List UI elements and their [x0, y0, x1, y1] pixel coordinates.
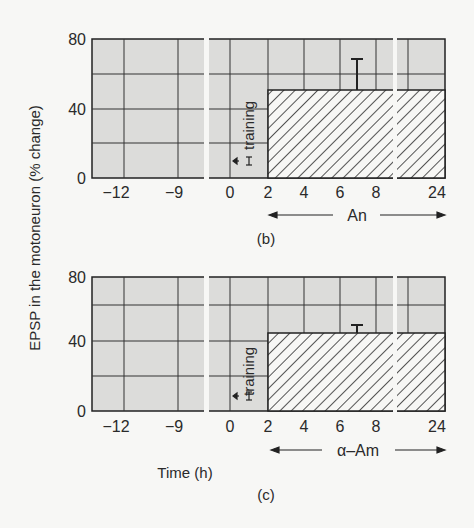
axis-break-right-b	[393, 34, 397, 184]
svg-text:−12: −12	[102, 418, 129, 435]
axis-break-left-b	[204, 34, 209, 184]
x-ticks-b: −12 −9 0 2 4 6 8 24	[102, 184, 446, 201]
axis-break-right-c	[393, 272, 397, 417]
effect-area-b	[268, 90, 445, 178]
y-tick-0-b: 0	[77, 170, 86, 187]
y-tick-40-b: 40	[68, 101, 86, 118]
panel-c: training 80 40 0 −12 −9 0 2 4 6 8 24	[68, 269, 446, 503]
svg-text:−9: −9	[165, 184, 183, 201]
effect-area-c	[268, 333, 445, 411]
figure-canvas: training 80 40 0 −12 −9 0 2 4 6 8 24	[0, 0, 474, 528]
y-axis-label: EPSP in the motoneuron (% change)	[26, 105, 43, 351]
y-tick-0-c: 0	[77, 403, 86, 420]
svg-text:24: 24	[428, 184, 446, 201]
x-ticks-c: −12 −9 0 2 4 6 8 24	[102, 418, 446, 435]
svg-text:0: 0	[226, 184, 235, 201]
svg-text:−12: −12	[102, 184, 129, 201]
panel-b: training 80 40 0 −12 −9 0 2 4 6 8 24	[68, 31, 446, 247]
svg-text:4: 4	[300, 418, 309, 435]
y-tick-80-b: 80	[68, 31, 86, 48]
svg-text:24: 24	[428, 418, 446, 435]
svg-text:8: 8	[372, 184, 381, 201]
svg-text:0: 0	[226, 418, 235, 435]
svg-text:8: 8	[372, 418, 381, 435]
svg-text:2: 2	[264, 184, 273, 201]
y-tick-40-c: 40	[68, 333, 86, 350]
panel-label-c: (c)	[257, 486, 275, 503]
training-label-b: training	[240, 101, 257, 150]
svg-text:4: 4	[300, 184, 309, 201]
svg-text:−9: −9	[165, 418, 183, 435]
axis-break-left-c	[204, 272, 209, 417]
svg-text:2: 2	[264, 418, 273, 435]
y-tick-80-c: 80	[68, 269, 86, 286]
training-label-c: training	[240, 347, 257, 396]
range-label-b: An	[347, 207, 367, 224]
svg-text:6: 6	[336, 184, 345, 201]
range-label-c: α–Am	[337, 442, 379, 459]
svg-text:6: 6	[336, 418, 345, 435]
x-axis-label: Time (h)	[157, 464, 212, 481]
panel-label-b: (b)	[257, 230, 275, 247]
